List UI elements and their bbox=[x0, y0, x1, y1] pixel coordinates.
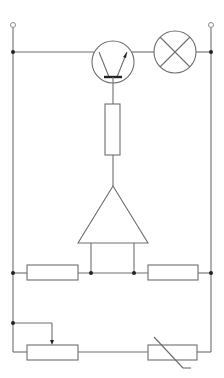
lamp-icon bbox=[154, 31, 196, 73]
terminal-right-icon bbox=[209, 23, 214, 28]
circuit-diagram bbox=[0, 0, 224, 378]
left-rail bbox=[13, 28, 27, 352]
thermistor-icon bbox=[148, 337, 197, 368]
resistor-right-icon bbox=[148, 265, 198, 280]
potentiometer-icon bbox=[13, 323, 78, 360]
right-rail bbox=[197, 28, 211, 352]
base-resistor-icon bbox=[105, 104, 120, 186]
terminal-left-icon bbox=[11, 23, 16, 28]
transistor-icon bbox=[92, 41, 134, 104]
resistor-left-icon bbox=[27, 265, 78, 280]
op-amp-icon bbox=[78, 186, 148, 273]
